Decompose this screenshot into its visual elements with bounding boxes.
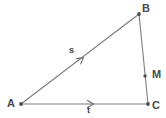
vertex-label-b: B bbox=[142, 3, 150, 14]
vertex-dot-a bbox=[19, 102, 23, 106]
vector-label-s: s bbox=[69, 46, 74, 55]
segment-bc bbox=[139, 14, 148, 104]
point-dot-m bbox=[143, 74, 146, 77]
point-label-m: M bbox=[152, 69, 161, 80]
triangle-diagram-svg bbox=[0, 0, 166, 118]
vector-label-t: t bbox=[87, 106, 90, 115]
geometry-figure: A B C M s t bbox=[0, 0, 166, 118]
segment-ab bbox=[21, 14, 139, 104]
vertex-label-a: A bbox=[7, 98, 15, 109]
vertex-dot-c bbox=[146, 102, 150, 106]
vertex-dot-b bbox=[137, 12, 141, 16]
vertex-label-c: C bbox=[152, 100, 160, 111]
